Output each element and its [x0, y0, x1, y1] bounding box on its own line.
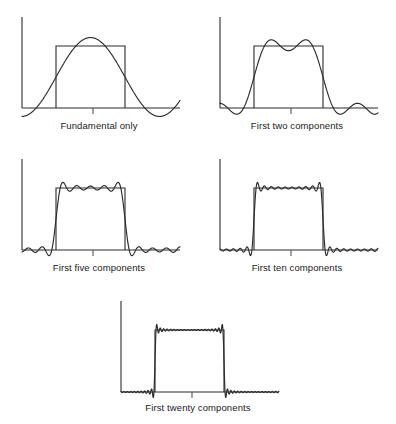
panel-4-caption: First ten components: [198, 262, 396, 273]
panel-2-caption: First two components: [198, 120, 396, 131]
fourier-square-wave-figure: Fundamental only First two components Fi…: [0, 0, 396, 424]
panel-5-axes: [121, 301, 279, 398]
fourier-approximation-curve: [220, 40, 378, 114]
panel-1-caption: Fundamental only: [0, 120, 198, 131]
panel-first-ten-components: First ten components: [198, 142, 396, 284]
panel-3-axes: [22, 159, 180, 256]
panel-first-five-components: First five components: [0, 142, 198, 284]
fourier-approximation-curve: [22, 182, 180, 255]
panel-2-axes: [220, 17, 378, 114]
panel-1-axes: [22, 17, 180, 114]
panel-2-plot: [198, 0, 396, 120]
fourier-approximation-curve: [22, 38, 180, 117]
panel-first-twenty-components: First twenty components: [99, 284, 297, 424]
panel-3-caption: First five components: [0, 262, 198, 273]
panel-4-axes: [220, 159, 378, 256]
square-wave-reference: [56, 188, 125, 250]
square-wave-reference: [254, 46, 323, 108]
panel-5-caption: First twenty components: [99, 402, 297, 413]
panel-4-plot: [198, 142, 396, 262]
panel-3-plot: [0, 142, 198, 262]
panel-5-plot: [99, 284, 297, 404]
fourier-approximation-curve: [121, 324, 279, 397]
panel-first-two-components: First two components: [198, 0, 396, 142]
square-wave-reference: [254, 188, 323, 250]
square-wave-reference: [155, 330, 224, 392]
fourier-approximation-curve: [220, 182, 378, 255]
square-wave-reference: [56, 46, 125, 108]
panel-1-plot: [0, 0, 198, 120]
panel-fundamental-only: Fundamental only: [0, 0, 198, 142]
